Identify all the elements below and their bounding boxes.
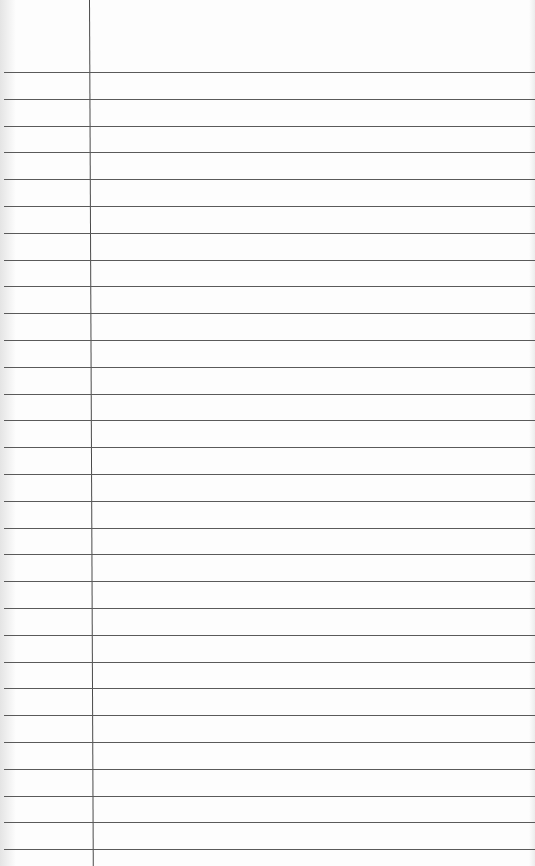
ruled-line bbox=[4, 554, 535, 555]
ruled-line bbox=[4, 152, 535, 153]
ruled-line bbox=[4, 340, 535, 341]
page-edge-shadow bbox=[0, 0, 16, 866]
ruled-line bbox=[4, 608, 535, 609]
ruled-line bbox=[4, 233, 535, 234]
ruled-line bbox=[4, 260, 535, 261]
ruled-line bbox=[4, 528, 535, 529]
ruled-line bbox=[4, 420, 535, 421]
ruled-line bbox=[4, 635, 535, 636]
ruled-line bbox=[4, 206, 535, 207]
ruled-line bbox=[4, 72, 535, 73]
ruled-line bbox=[4, 849, 535, 850]
ruled-line bbox=[4, 715, 535, 716]
ruled-line bbox=[4, 286, 535, 287]
ruled-line bbox=[4, 769, 535, 770]
ruled-line bbox=[4, 394, 535, 395]
ruled-line bbox=[4, 662, 535, 663]
ruled-line bbox=[4, 501, 535, 502]
ruled-line bbox=[4, 796, 535, 797]
lined-paper-sheet bbox=[0, 0, 535, 866]
ruled-line bbox=[4, 474, 535, 475]
ruled-line bbox=[4, 688, 535, 689]
ruled-line bbox=[4, 447, 535, 448]
ruled-line bbox=[4, 742, 535, 743]
ruled-line bbox=[4, 581, 535, 582]
ruled-line bbox=[4, 822, 535, 823]
page-edge-shadow-right bbox=[529, 0, 535, 866]
ruled-line bbox=[4, 367, 535, 368]
margin-line bbox=[89, 0, 94, 866]
ruled-line bbox=[4, 126, 535, 127]
ruled-line bbox=[4, 313, 535, 314]
ruled-line bbox=[4, 99, 535, 100]
ruled-line bbox=[4, 179, 535, 180]
